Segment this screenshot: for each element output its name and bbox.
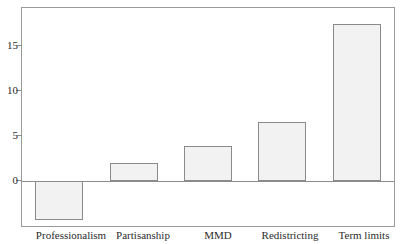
bar-chart: 0 5 10 15 Professionalism Partisanship M…: [0, 0, 407, 244]
y-tick-label-0: 0: [13, 175, 19, 186]
bar-term-limits[interactable]: [333, 24, 381, 181]
y-tick-label-5: 5: [13, 130, 19, 141]
zero-baseline: [22, 181, 394, 182]
bar-partisanship[interactable]: [110, 163, 158, 181]
plot-area: [22, 8, 394, 226]
y-tick-label-10: 10: [7, 85, 18, 96]
bar-professionalism[interactable]: [35, 181, 83, 220]
x-axis-label-term-limits: Term limits: [306, 230, 407, 241]
bar-mmd[interactable]: [184, 146, 232, 181]
y-tick-label-15: 15: [7, 40, 18, 51]
bar-redistricting[interactable]: [258, 122, 306, 181]
